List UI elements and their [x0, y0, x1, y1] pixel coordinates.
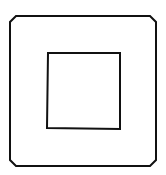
inner-square — [47, 53, 120, 129]
outer-chamfered-frame — [10, 16, 156, 166]
figure-canvas — [0, 0, 166, 175]
nested-squares-drawing — [0, 0, 166, 175]
